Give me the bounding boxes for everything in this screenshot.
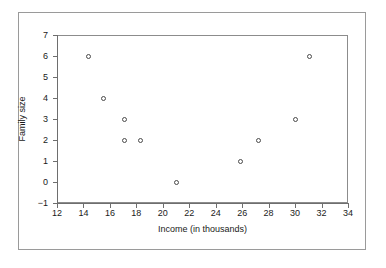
y-tick-mark [53,140,57,141]
data-point [122,138,127,143]
y-tick-label: 1 [43,156,48,166]
x-tick-label: 16 [105,208,115,218]
y-tick-mark [53,35,57,36]
y-tick-mark [53,119,57,120]
y-axis-label: Family size [17,96,27,141]
plot-area [57,35,348,203]
x-tick-label: 28 [264,208,274,218]
x-tick-label: 34 [343,208,353,218]
y-tick-mark [53,98,57,99]
y-tick-mark [53,182,57,183]
y-tick-label: −1 [38,198,48,208]
data-point [86,54,91,59]
data-point [256,138,261,143]
y-tick-label: 5 [43,72,48,82]
y-tick-label: 7 [43,30,48,40]
data-point [174,180,179,185]
y-tick-label: 6 [43,51,48,61]
x-tick-label: 20 [158,208,168,218]
y-tick-label: 0 [43,177,48,187]
data-point [122,117,127,122]
y-tick-label: 3 [43,114,48,124]
y-axis-line [57,35,58,204]
y-tick-label: 4 [43,93,48,103]
x-tick-label: 26 [237,208,247,218]
y-tick-mark [53,77,57,78]
data-point [307,54,312,59]
y-tick-mark [53,203,57,204]
x-tick-label: 32 [317,208,327,218]
data-point [238,159,243,164]
y-tick-mark [53,56,57,57]
data-point [138,138,143,143]
x-tick-label: 30 [290,208,300,218]
scatter-plot-figure: 121416182022242628303234 −101234567 Inco… [0,0,386,268]
y-tick-label: 2 [43,135,48,145]
x-axis-label: Income (in thousands) [57,224,348,234]
x-tick-label: 22 [184,208,194,218]
x-tick-label: 24 [211,208,221,218]
x-tick-label: 12 [52,208,62,218]
data-point [293,117,298,122]
x-tick-label: 18 [131,208,141,218]
x-tick-label: 14 [78,208,88,218]
y-tick-mark [53,161,57,162]
x-axis-line [57,203,349,204]
data-point [101,96,106,101]
